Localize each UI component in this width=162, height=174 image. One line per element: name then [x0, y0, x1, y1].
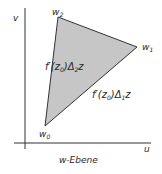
edge-label-delta1: f′(z0)Δ1z	[92, 89, 131, 101]
vertex-label-w2: w2	[52, 7, 63, 18]
vertex-label-w0: w0	[39, 129, 50, 140]
vertex-label-w1: w1	[142, 42, 153, 53]
w-plane-diagram: v u w2 w1 w0 f′(z0)Δ2z f′(z0)Δ1z w-Ebene	[0, 0, 162, 174]
edge-label-delta2: f′(z0)Δ2z	[45, 61, 84, 73]
v-axis-label: v	[13, 13, 19, 23]
u-axis-label: u	[144, 144, 150, 154]
diagram-caption: w-Ebene	[59, 155, 98, 165]
